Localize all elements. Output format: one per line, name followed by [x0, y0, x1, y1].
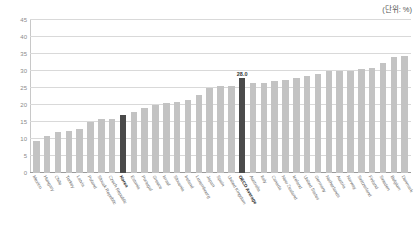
bar[interactable] [401, 56, 407, 173]
x-label-slot: Hungary [42, 174, 53, 240]
bar-slot [161, 20, 172, 173]
bar[interactable] [217, 86, 223, 173]
bar[interactable] [163, 103, 169, 173]
bar-slot [269, 20, 280, 173]
bar[interactable] [336, 71, 342, 173]
x-label-slot: Netherlands [323, 174, 334, 240]
bar-slot [118, 20, 129, 173]
bar-slot [204, 20, 215, 173]
y-axis-tick-label: 20 [20, 102, 27, 108]
bar-slot [356, 20, 367, 173]
bar-slot [183, 20, 194, 173]
x-label-slot: Turkey [63, 174, 74, 240]
x-label-slot: Germany [313, 174, 324, 240]
bar[interactable] [185, 100, 191, 173]
x-label-slot: Iceland [291, 174, 302, 240]
x-axis-category-label: Chile [53, 175, 62, 186]
bar[interactable] [282, 80, 288, 174]
bar[interactable] [380, 63, 386, 174]
bar-slot [280, 20, 291, 173]
bar-slot [42, 20, 53, 173]
x-label-slot: United Kingdom [226, 174, 237, 240]
x-axis-labels: MexicoHungaryChileTurkeyLatviaPolandSlov… [30, 174, 411, 240]
x-label-slot: Korea [118, 174, 129, 240]
y-axis-tick-label: 5 [24, 153, 27, 159]
bar[interactable] [369, 68, 375, 173]
bar-slot [53, 20, 64, 173]
bar[interactable] [304, 76, 310, 173]
bar[interactable] [131, 112, 137, 173]
x-label-slot: Greece [150, 174, 161, 240]
x-label-slot: Slovak Republic [96, 174, 107, 240]
plot-area: 051015202530354045 28.0 [30, 20, 411, 173]
bar-slot [74, 20, 85, 173]
bar[interactable] [261, 83, 267, 173]
x-label-slot: Portugal [139, 174, 150, 240]
bar[interactable] [326, 71, 332, 173]
bar-slot [248, 20, 259, 173]
x-axis-category-label: Spain [216, 175, 226, 187]
x-label-slot: Norway [345, 174, 356, 240]
bar-slot [258, 20, 269, 173]
x-label-slot: Latvia [74, 174, 85, 240]
bar[interactable] [206, 88, 212, 173]
bar-slot [96, 20, 107, 173]
x-axis-category-label: Japan [205, 175, 215, 188]
bar[interactable] [228, 86, 234, 173]
y-axis-tick-label: 15 [20, 119, 27, 125]
bar-slot [367, 20, 378, 173]
bar[interactable] [141, 108, 147, 173]
bar[interactable] [76, 129, 82, 173]
bar-slot [215, 20, 226, 173]
bar[interactable] [55, 132, 61, 173]
bar-value-label: 28.0 [237, 71, 248, 77]
bar-slot [193, 20, 204, 173]
bar[interactable] [315, 74, 321, 173]
bar[interactable] [87, 122, 93, 173]
y-axis-tick-label: 30 [20, 68, 27, 74]
bar[interactable] [33, 141, 39, 173]
bar-slot [31, 20, 42, 173]
bar[interactable] [196, 95, 202, 173]
x-axis-category-label: Korea [118, 175, 128, 189]
y-axis-tick-label: 35 [20, 51, 27, 57]
x-axis-category-label: Latvia [75, 175, 85, 188]
chart-root: (단위: %) 051015202530354045 28.0 MexicoHu… [0, 0, 418, 242]
bar-slot [63, 20, 74, 173]
x-label-slot: New Zealand [280, 174, 291, 240]
bar[interactable] [109, 119, 115, 173]
bar[interactable] [44, 136, 50, 173]
bar[interactable] [347, 71, 353, 173]
y-axis-tick-label: 40 [20, 34, 27, 40]
bar[interactable] [250, 83, 256, 173]
bar[interactable] [120, 115, 126, 173]
x-label-slot: OECD Average [237, 174, 248, 240]
bar[interactable] [358, 69, 364, 173]
x-label-slot: Belgium [388, 174, 399, 240]
bar[interactable]: 28.0 [239, 78, 245, 173]
x-label-slot: Poland [85, 174, 96, 240]
bar[interactable] [66, 131, 72, 174]
unit-note: (단위: %) [382, 3, 412, 14]
x-label-slot: Luxembourg [193, 174, 204, 240]
bar[interactable] [152, 105, 158, 173]
x-label-slot: Denmark [399, 174, 410, 240]
x-label-slot: Austria [334, 174, 345, 240]
bar-slot [313, 20, 324, 173]
x-label-slot: Japan [204, 174, 215, 240]
bar-slot [107, 20, 118, 173]
bar-slot [150, 20, 161, 173]
y-axis-tick-label: 25 [20, 85, 27, 91]
x-axis-category-label: Denmark [400, 175, 413, 193]
bar[interactable] [271, 81, 277, 173]
bar[interactable] [293, 78, 299, 173]
bar[interactable] [98, 119, 104, 173]
y-axis-tick-label: 45 [20, 17, 27, 23]
bar-slot [378, 20, 389, 173]
x-label-slot: Italy [258, 174, 269, 240]
bar-slot [85, 20, 96, 173]
bar-slot [139, 20, 150, 173]
bar[interactable] [391, 57, 397, 173]
x-label-slot: Estonia [128, 174, 139, 240]
bar[interactable] [174, 102, 180, 173]
